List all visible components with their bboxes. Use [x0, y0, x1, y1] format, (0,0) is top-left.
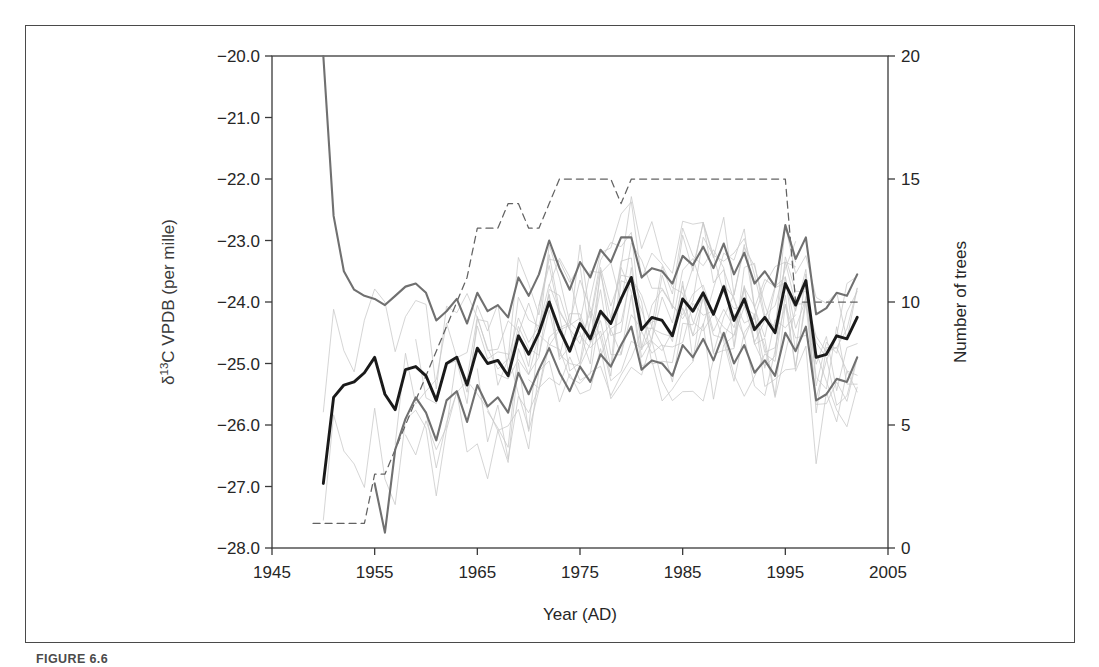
y-tick-label: −22.0 — [217, 170, 260, 189]
y-tick-label: −26.0 — [217, 416, 260, 435]
y2-tick-label: 20 — [901, 47, 920, 66]
y-tick-label: −27.0 — [217, 478, 260, 497]
x-tick-label: 1985 — [664, 563, 702, 582]
caption-label: FIGURE 6.6 — [36, 652, 108, 666]
upper-envelope-line — [323, 56, 857, 324]
individual-tree-series — [405, 287, 857, 455]
y-tick-label: −23.0 — [217, 232, 260, 251]
y-tick-label: −20.0 — [217, 47, 260, 66]
x-tick-label: 1995 — [766, 563, 804, 582]
y2-tick-label: 10 — [901, 293, 920, 312]
x-tick-label: 1955 — [356, 563, 394, 582]
y-tick-label: −24.0 — [217, 293, 260, 312]
y-tick-label: −21.0 — [217, 109, 260, 128]
figure-caption: FIGURE 6.6 — [36, 652, 1076, 666]
y2-axis-label: Number of trees — [951, 241, 970, 363]
x-axis-label: Year (AD) — [543, 605, 617, 624]
chart-canvas: −28.0−27.0−26.0−25.0−24.0−23.0−22.0−21.0… — [0, 0, 1099, 667]
y2-tick-label: 15 — [901, 170, 920, 189]
figure-root: −28.0−27.0−26.0−25.0−24.0−23.0−22.0−21.0… — [0, 0, 1099, 667]
y-axis-label-text: δ13C VPDB (per mille) — [158, 219, 178, 385]
x-tick-label: 1975 — [561, 563, 599, 582]
y-axis-label: δ13C VPDB (per mille) — [158, 219, 178, 385]
y2-tick-label: 5 — [901, 416, 910, 435]
x-tick-label: 2005 — [869, 563, 907, 582]
x-tick-label: 1965 — [458, 563, 496, 582]
y-tick-label: −28.0 — [217, 539, 260, 558]
y2-tick-label: 0 — [901, 539, 910, 558]
y-tick-label: −25.0 — [217, 355, 260, 374]
x-tick-label: 1945 — [253, 563, 291, 582]
